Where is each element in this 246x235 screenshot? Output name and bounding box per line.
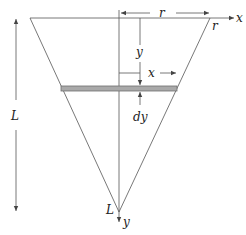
L-height-label: L — [10, 109, 19, 123]
x-axis-label: x — [236, 11, 243, 25]
cone-left-edge — [30, 18, 119, 212]
cone-diagram: x y L r r y x dy L — [0, 0, 246, 235]
x-distance-label: x — [148, 66, 155, 80]
dy-label: dy — [133, 110, 148, 124]
apex-label: L — [105, 203, 114, 217]
slice-strip — [61, 86, 177, 91]
r-corner-label: r — [212, 19, 219, 33]
y-axis-label: y — [122, 215, 130, 229]
y-distance-label: y — [135, 45, 143, 59]
cone-outline — [30, 18, 210, 212]
